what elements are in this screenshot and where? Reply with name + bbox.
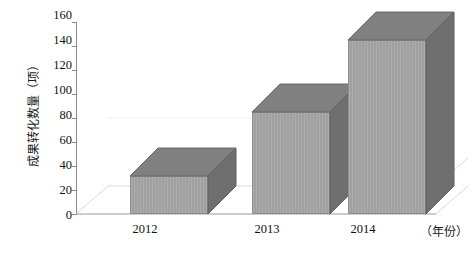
y-tick-label: 40 — [28, 159, 72, 172]
x-tick-label-2014: 2014 — [351, 222, 376, 237]
y-tick-label: 80 — [28, 109, 72, 122]
y-tick-label: 100 — [28, 84, 72, 97]
plot-area — [76, 22, 436, 214]
bar-side-face — [426, 12, 454, 214]
bar-3d-faces — [348, 12, 458, 214]
bar-chart: 成果转化数量（项） 160 140 120 100 80 60 40 20 0 — [0, 0, 472, 253]
bar-2014 — [348, 40, 426, 214]
y-tick-label: 120 — [28, 59, 72, 72]
bar-2013 — [252, 112, 330, 214]
y-tick-label: 20 — [28, 184, 72, 197]
y-tick-label: 0 — [28, 209, 72, 222]
bar-3d-faces — [252, 84, 362, 214]
y-tick-label: 60 — [28, 134, 72, 147]
y-axis-tick-labels: 160 140 120 100 80 60 40 20 0 — [28, 15, 72, 215]
x-axis-tick-labels: 2012 2013 2014 — [0, 222, 472, 246]
bar-2012 — [130, 176, 208, 214]
x-axis-title: （年份） — [420, 222, 468, 239]
y-tick-label: 160 — [28, 9, 72, 22]
x-tick-label-2012: 2012 — [133, 222, 158, 237]
bar-3d-faces — [130, 148, 240, 214]
x-tick-label-2013: 2013 — [255, 222, 280, 237]
y-tick-label: 140 — [28, 34, 72, 47]
